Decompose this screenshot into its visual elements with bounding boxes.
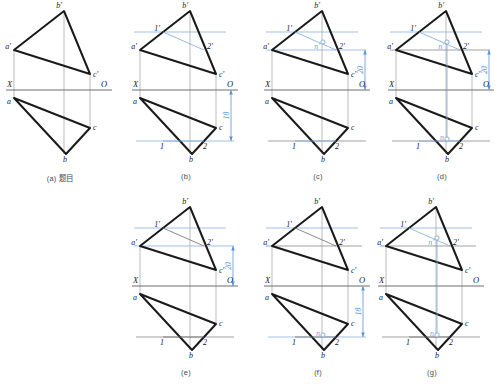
- label-two-prime: 2': [463, 42, 469, 51]
- panel-f: 18b'a'c'abc1'2'12nXO: [262, 198, 374, 360]
- panel-e: 20b'a'c'abc1'2'12XO: [130, 198, 242, 360]
- label-one-prime: 1': [154, 24, 160, 33]
- label-a-prime: a': [263, 238, 269, 247]
- panel-d: 20b'a'c'abc1'2'12n'nXO: [386, 2, 498, 164]
- panel-e-drawing: 20b'a'c'abc1'2'12XO: [130, 198, 242, 360]
- label-a-prime: a': [5, 42, 11, 51]
- label-b-prime: b': [56, 2, 62, 10]
- label-O: O: [359, 79, 365, 89]
- label-X: X: [132, 79, 139, 89]
- frontal-triangle-abc: [14, 11, 90, 74]
- label-two: 2: [449, 338, 453, 347]
- label-one: 1: [160, 338, 164, 347]
- label-n: n: [316, 329, 320, 338]
- label-one-prime: 1': [400, 220, 406, 229]
- frontal-triangle-abc: [272, 207, 348, 270]
- aux-line-1prime-2prime: [163, 228, 204, 246]
- label-two-prime: 2': [207, 238, 213, 247]
- panel-a: b'a'c'abcXO: [4, 2, 116, 164]
- panel-a-drawing: b'a'c'abcXO: [4, 2, 116, 164]
- label-two-prime: 2': [339, 42, 345, 51]
- panel-d-drawing: 20b'a'c'abc1'2'12n'nXO: [386, 2, 498, 164]
- panel-e-caption: (e): [146, 368, 226, 377]
- label-c-prime: c': [351, 70, 357, 79]
- label-two: 2: [203, 338, 207, 347]
- panel-a-caption: (a) 题目: [20, 172, 100, 183]
- label-two: 2: [335, 142, 339, 151]
- label-n: n: [440, 133, 444, 142]
- label-c: c: [475, 123, 479, 132]
- label-b-prime: b': [314, 198, 320, 206]
- label-two-prime: 2': [339, 238, 345, 247]
- label-two-prime: 2': [453, 238, 459, 247]
- label-a: a: [133, 293, 137, 302]
- label-b: b: [435, 351, 439, 360]
- label-b-prime: b': [438, 2, 444, 10]
- label-n: n: [430, 329, 434, 338]
- label-b-prime: b': [182, 198, 188, 206]
- label-O: O: [473, 275, 479, 285]
- label-a-prime: a': [263, 42, 269, 51]
- dimension-20-arrow-top: [231, 246, 235, 251]
- panel-g-caption: (g): [392, 368, 472, 377]
- dimension-18-arrow-bottom: [229, 137, 233, 142]
- label-X: X: [264, 275, 271, 285]
- label-a-prime: a': [131, 42, 137, 51]
- dimension-20-label: 20: [480, 66, 489, 74]
- label-one: 1: [160, 142, 164, 151]
- label-c-prime: c': [219, 266, 225, 275]
- label-two: 2: [459, 142, 463, 151]
- panel-b: 18b'a'c'abc1'2'12XO: [130, 2, 242, 164]
- label-c-prime: c': [351, 266, 357, 275]
- label-b-prime: b': [314, 2, 320, 10]
- label-a-prime: a': [377, 238, 383, 247]
- panel-f-caption: (f): [278, 368, 358, 377]
- label-c: c: [93, 123, 97, 132]
- label-a: a: [389, 97, 393, 106]
- label-one-prime: 1': [154, 220, 160, 229]
- point-marker-n-prime: [445, 40, 449, 44]
- panel-g-drawing: b'a'c'abc1'2'12n'nXO: [376, 198, 488, 360]
- frontal-triangle-abc: [140, 207, 216, 270]
- point-marker-n: [445, 137, 449, 141]
- label-a-prime: a': [387, 42, 393, 51]
- label-c: c: [351, 123, 355, 132]
- frontal-triangle-abc: [396, 11, 472, 74]
- panel-b-caption: (b): [146, 172, 226, 181]
- label-b: b: [63, 155, 67, 164]
- point-marker-n-prime: [435, 236, 439, 240]
- label-a: a: [265, 97, 269, 106]
- label-b-prime: b': [182, 2, 188, 10]
- panel-c: 20b'a'c'abc1'2'12n'XO: [262, 2, 374, 164]
- label-b: b: [321, 155, 325, 164]
- dimension-20-label: 20: [356, 66, 365, 74]
- label-X: X: [388, 79, 395, 89]
- label-one-prime: 1': [286, 220, 292, 229]
- label-one-prime: 1': [286, 24, 292, 33]
- frontal-triangle-abc: [140, 11, 216, 74]
- label-two-prime: 2': [207, 42, 213, 51]
- label-one: 1: [292, 142, 296, 151]
- frontal-triangle-abc: [386, 207, 462, 270]
- label-a: a: [7, 97, 11, 106]
- label-n-prime: n': [428, 238, 434, 247]
- label-c: c: [219, 123, 223, 132]
- label-O: O: [359, 275, 365, 285]
- label-c: c: [351, 319, 355, 328]
- dimension-20-arrow-top: [363, 50, 367, 55]
- label-c-prime: c': [465, 266, 471, 275]
- dimension-18-arrow-top: [229, 90, 233, 95]
- label-c: c: [465, 319, 469, 328]
- aux-line-1prime-2prime: [163, 32, 204, 50]
- label-X: X: [264, 79, 271, 89]
- figure-sheet: b'a'c'abcXO(a) 题目18b'a'c'abc1'2'12XO(b)2…: [0, 0, 499, 391]
- label-a-prime: a': [131, 238, 137, 247]
- label-c-prime: c': [475, 70, 481, 79]
- frontal-triangle-abc: [272, 11, 348, 74]
- label-one: 1: [416, 142, 420, 151]
- horizontal-triangle-abc: [14, 98, 90, 154]
- panel-b-drawing: 18b'a'c'abc1'2'12XO: [130, 2, 242, 164]
- label-O: O: [483, 79, 489, 89]
- panel-c-drawing: 20b'a'c'abc1'2'12n'XO: [262, 2, 374, 164]
- dimension-20-label: 20: [224, 262, 233, 270]
